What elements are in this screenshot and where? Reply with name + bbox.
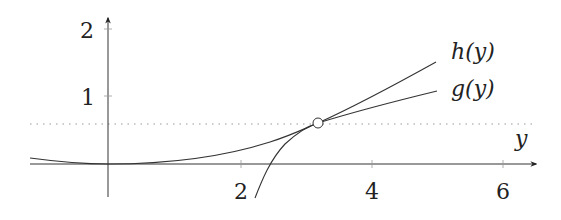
- tick-label-x6: 6: [496, 179, 510, 204]
- tick-label-x2: 2: [234, 179, 248, 204]
- ticks: [104, 29, 503, 168]
- g-series-label: g(y): [451, 76, 495, 101]
- h-series-label: h(y): [451, 39, 495, 64]
- intersection-point: [313, 118, 323, 128]
- chart: 2 1 2 4 6 y h(y) g(y): [0, 0, 561, 220]
- x-axis-label: y: [514, 126, 528, 151]
- tick-label-y2: 2: [80, 18, 94, 43]
- tick-label-y1: 1: [81, 85, 95, 110]
- h-curve: [255, 62, 436, 198]
- tick-label-x4: 4: [365, 179, 379, 204]
